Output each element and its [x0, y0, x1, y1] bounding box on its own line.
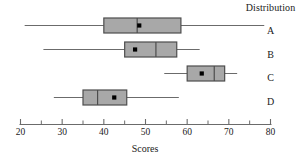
tick-label-80: 80 [259, 127, 283, 137]
box-body [83, 90, 127, 105]
box-body [125, 42, 177, 57]
tick-label-70: 70 [217, 127, 241, 137]
box-body [104, 18, 181, 33]
mean-dot [137, 23, 141, 27]
tick-label-20: 20 [9, 127, 33, 137]
dist-label-c: C [236, 72, 305, 83]
box-b [43, 42, 199, 57]
boxplot-series [25, 18, 265, 105]
dist-label-d: D [236, 96, 305, 107]
box-a [25, 18, 265, 33]
box-c [164, 66, 237, 81]
tick-label-50: 50 [134, 127, 158, 137]
axis-title: Scores [0, 143, 290, 154]
dist-label-b: B [236, 49, 305, 60]
tick-label-30: 30 [50, 127, 74, 137]
tick-label-60: 60 [175, 127, 199, 137]
box-d [54, 90, 179, 105]
x-axis [20, 119, 272, 125]
tick-label-40: 40 [92, 127, 116, 137]
dist-label-a: A [236, 25, 305, 36]
mean-dot [200, 71, 204, 75]
box-body [187, 66, 225, 81]
mean-dot [112, 95, 116, 99]
legend-header: Distribution [236, 2, 305, 13]
mean-dot [133, 47, 137, 51]
